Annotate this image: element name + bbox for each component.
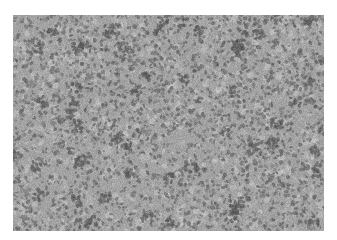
micrograph-image (13, 15, 324, 231)
tissue-texture (13, 15, 324, 231)
